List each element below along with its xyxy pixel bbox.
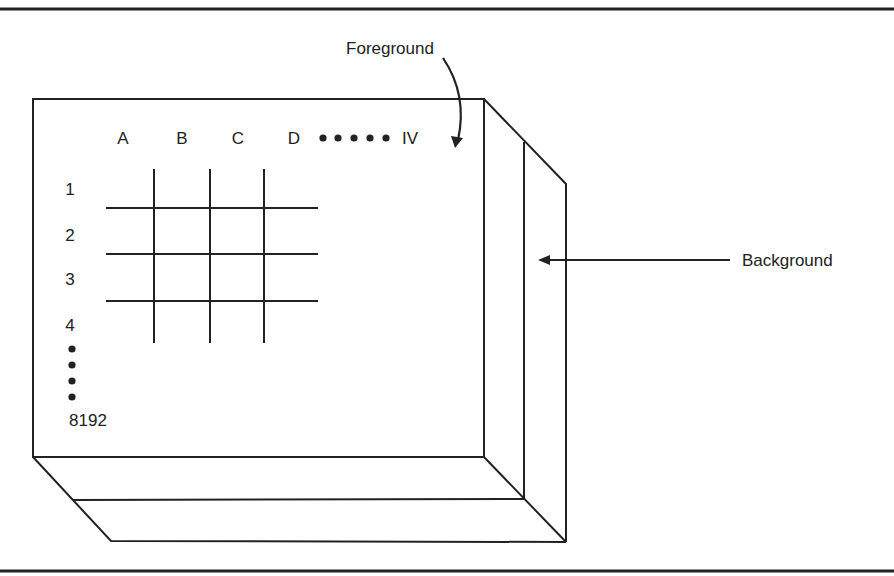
row-label: 1 xyxy=(65,180,74,199)
column-ellipsis-dots xyxy=(319,134,389,141)
foreground-label: Foreground xyxy=(346,39,434,58)
row-label: 2 xyxy=(65,226,74,245)
column-label: B xyxy=(176,129,187,148)
background-arrowhead-icon xyxy=(538,255,550,265)
front-face xyxy=(33,99,484,457)
column-label: A xyxy=(117,129,129,148)
row-label: 4 xyxy=(65,316,74,335)
background-label: Background xyxy=(742,251,833,270)
foreground-background-diagram: A B C D IV 1 2 3 4 8192 Foreground Backg… xyxy=(0,0,894,576)
row-labels: 1 2 3 4 xyxy=(65,180,74,335)
foreground-arrowhead-icon xyxy=(451,136,463,148)
stack-box xyxy=(33,99,566,542)
column-label: D xyxy=(288,129,300,148)
row-label-last: 8192 xyxy=(69,411,107,430)
bottom-side-divider xyxy=(73,499,524,500)
column-labels: A B C D xyxy=(117,129,300,148)
grid xyxy=(106,169,318,343)
row-ellipsis-dots xyxy=(68,345,75,400)
column-label: C xyxy=(232,129,244,148)
column-label-last: IV xyxy=(402,129,419,148)
row-label: 3 xyxy=(65,270,74,289)
